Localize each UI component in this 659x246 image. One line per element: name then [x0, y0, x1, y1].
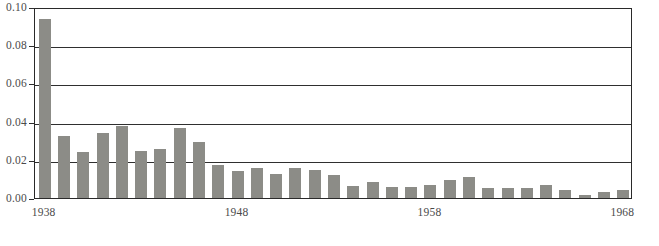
bar [598, 192, 610, 198]
x-tick-label: 1958 [418, 207, 442, 219]
bar [174, 128, 186, 198]
bar [540, 185, 552, 198]
y-tick-label: 0.10 [6, 2, 27, 14]
bar [579, 195, 591, 198]
bar-chart: 0.000.020.040.060.080.10 193819481958196… [0, 0, 659, 246]
bar [502, 188, 514, 199]
bar [116, 126, 128, 198]
y-tick-label: 0.06 [6, 78, 27, 90]
plot-area [34, 8, 632, 199]
bar [251, 168, 263, 198]
x-tick-label: 1968 [610, 207, 634, 219]
y-tick-label: 0.02 [6, 155, 27, 167]
bar [309, 170, 321, 198]
bar [232, 171, 244, 198]
bar [521, 188, 533, 199]
bar [559, 190, 571, 198]
bar [58, 136, 70, 198]
bar [212, 165, 224, 198]
y-axis: 0.000.020.040.060.080.10 [0, 0, 34, 207]
bar [193, 142, 205, 198]
bar [77, 152, 89, 198]
bar [617, 190, 629, 198]
x-axis: 1938194819581968 [0, 199, 659, 229]
bar [154, 149, 166, 198]
bar [482, 188, 494, 198]
bar [424, 185, 436, 198]
bar [405, 187, 417, 198]
bar [39, 19, 51, 198]
bar [463, 177, 475, 198]
bar [347, 186, 359, 198]
bar [367, 182, 379, 198]
y-tick-label: 0.08 [6, 40, 27, 52]
bar [444, 180, 456, 198]
bar [97, 133, 109, 198]
bar [328, 175, 340, 198]
bar [289, 168, 301, 198]
x-tick-label: 1948 [225, 207, 249, 219]
bar [270, 174, 282, 198]
x-tick-label: 1938 [32, 207, 56, 219]
bars-layer [35, 9, 631, 198]
y-tick-label: 0.04 [6, 117, 27, 129]
bar [386, 187, 398, 198]
bar [135, 151, 147, 198]
